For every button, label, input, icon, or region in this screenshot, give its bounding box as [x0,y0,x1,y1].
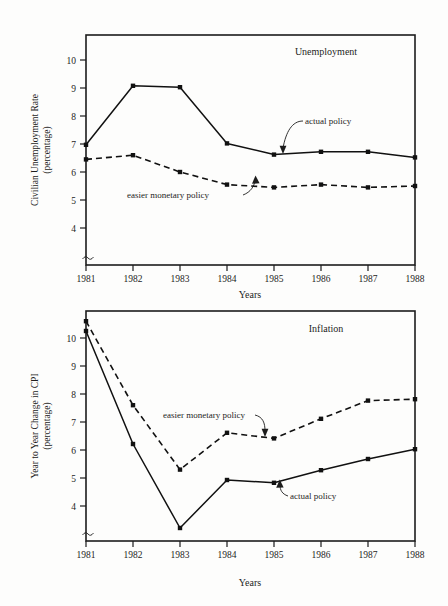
x-tick-label: 1983 [171,274,190,284]
y-axis-title-line1: Civilian Unemployment Rate [30,94,40,206]
x-tick-label: 1988 [406,274,425,284]
x-tick-label: 1985 [265,550,284,560]
series-easier-policy-markers [84,319,417,472]
y-tick-label: 5 [71,474,76,484]
annotation-easier-policy-leader [255,415,265,431]
inflation-plot: 10 9 8 7 6 5 4 1981 1982 1983 [0,303,448,606]
annotation-actual-policy: actual policy [305,116,352,126]
y-tick-label: 8 [71,390,76,400]
series-easier-policy-markers [84,153,417,190]
x-axis-title: Years [239,577,261,588]
y-tick-label: 10 [67,334,77,344]
plot-frame [86,35,415,265]
x-tick-label: 1985 [265,274,284,284]
x-axis-ticks [86,541,415,547]
x-tick-label: 1981 [77,274,96,284]
y-tick-label: 10 [67,56,77,66]
series-actual-policy-line [86,86,415,158]
x-tick-label: 1981 [77,550,96,560]
y-tick-label: 7 [71,418,76,428]
y-tick-label: 4 [71,224,76,234]
x-axis-title: Years [239,289,261,300]
y-tick-label: 7 [71,140,76,150]
x-tick-label: 1982 [124,550,143,560]
annotation-actual-policy: actual policy [290,491,337,501]
x-tick-label: 1984 [218,550,237,560]
annotation-easier-policy: easier monetary policy [127,190,209,200]
chart-inflation: 10 9 8 7 6 5 4 1981 1982 1983 [0,303,448,606]
series-actual-policy-line [86,331,415,528]
annotation-easier-policy-arrowhead [262,429,269,437]
series-actual-policy-markers [84,84,417,160]
annotation-easier-policy: easier monetary policy [163,410,245,420]
chart-title: Inflation [309,323,343,334]
y-tick-label: 8 [71,112,76,122]
annotation-easier-policy-arrowhead [252,176,260,184]
plot-frame [86,311,415,541]
x-tick-label: 1986 [312,274,331,284]
chart-unemployment: 10 9 8 7 6 5 4 1981 1982 1983 [0,0,448,303]
y-tick-label: 6 [71,168,76,178]
x-tick-label: 1987 [359,274,378,284]
y-axis-title-line1: Year to Year Change in CPI [30,373,40,478]
figure-page: 10 9 8 7 6 5 4 1981 1982 1983 [0,0,448,606]
y-tick-label: 4 [71,502,76,512]
x-tick-label: 1986 [312,550,331,560]
unemployment-plot: 10 9 8 7 6 5 4 1981 1982 1983 [0,0,448,303]
y-tick-label: 9 [71,362,76,372]
x-tick-label: 1987 [359,550,378,560]
y-tick-label: 9 [71,84,76,94]
y-axis-title-line2: (percentage) [42,126,53,173]
x-tick-label: 1983 [171,550,190,560]
y-axis-title-line2: (percentage) [42,402,53,449]
y-axis-ticks [80,338,86,506]
y-axis-break-icon [83,533,94,536]
y-tick-label: 6 [71,446,76,456]
x-axis-ticks [86,265,415,271]
y-tick-label: 5 [71,196,76,206]
x-tick-label: 1988 [406,550,425,560]
x-tick-label: 1982 [124,274,143,284]
x-tick-label: 1984 [218,274,237,284]
series-easier-policy-line [86,155,415,187]
chart-title: Unemployment [295,46,357,57]
y-axis-break-icon [83,257,94,260]
annotation-actual-policy-arrowhead [280,146,287,154]
annotation-actual-policy-leader [283,121,303,148]
series-actual-policy-markers [84,329,417,530]
